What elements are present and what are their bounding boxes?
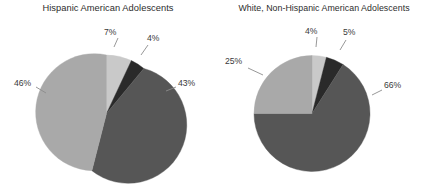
leader-line-hispanic-4 — [141, 45, 148, 55]
pie-label-white-25: 25% — [225, 56, 242, 66]
leader-line-hispanic-7 — [114, 38, 118, 47]
pie-chart-figure: Hispanic American Adolescents 7% 4% — [0, 0, 432, 186]
pie-label-hispanic-43: 43% — [178, 78, 195, 88]
leader-line-white-66 — [372, 90, 382, 95]
leader-line-white-25 — [248, 68, 263, 75]
pie-hispanic: 7% 4% 43% 46% — [0, 0, 216, 186]
pie-svg-white-non-hispanic — [216, 0, 432, 186]
leader-line-white-4 — [316, 37, 317, 47]
pie-slice-white-25 — [254, 56, 312, 114]
pie-label-white-5: 5% — [343, 27, 355, 37]
pie-slice-hispanic-46 — [36, 54, 107, 171]
pie-label-white-4: 4% — [305, 26, 317, 36]
pie-label-white-66: 66% — [384, 80, 401, 90]
chart-panel-hispanic: Hispanic American Adolescents 7% 4% — [0, 0, 216, 186]
pie-label-hispanic-7: 7% — [104, 27, 116, 37]
chart-panel-white-non-hispanic: White, Non-Hispanic American Adolescents… — [216, 0, 432, 186]
pie-white-non-hispanic: 4% 5% 66% 25% — [216, 0, 432, 186]
pie-label-hispanic-4: 4% — [147, 33, 159, 43]
pie-label-hispanic-46: 46% — [14, 78, 31, 88]
leader-line-white-5 — [340, 40, 346, 50]
